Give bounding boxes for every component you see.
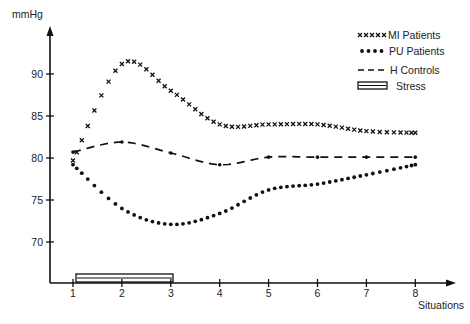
data-point [248,124,252,128]
data-point [100,190,104,194]
data-point [261,190,265,194]
data-point [291,122,295,126]
data-point [279,185,283,189]
data-point [352,128,356,132]
data-point [316,182,320,186]
y-axis-label: mmHg [12,8,43,20]
data-point [334,125,338,129]
blood-pressure-chart: mmHg Situations 7075808590 12345678 MI P… [0,0,470,324]
data-point [316,155,320,159]
x-tick-label: 6 [315,287,321,299]
data-point [230,206,234,210]
data-point [151,220,155,224]
data-point [144,218,148,222]
data-point [291,184,295,188]
y-tick-label: 80 [31,152,43,164]
data-point [358,174,362,178]
data-point [107,80,111,84]
series-pu-patients [71,163,417,226]
data-point [309,183,313,187]
legend-item-pu: PU Patients [360,45,444,57]
svg-text:MI Patients: MI Patients [388,29,441,41]
data-point [150,73,154,77]
data-point [413,131,417,135]
data-point [120,207,124,211]
data-point [138,216,142,220]
series-mi-patients [71,59,417,162]
data-point [358,128,362,132]
data-point [378,170,382,174]
data-point [132,60,136,64]
data-point [297,184,301,188]
cross-marker-icon [358,33,386,37]
data-point [236,125,240,129]
data-point [120,62,124,66]
legend-item-mi: MI Patients [358,29,441,41]
data-point [157,79,161,83]
svg-text:H Controls: H Controls [390,64,440,76]
data-point [242,125,246,129]
data-point [175,222,179,226]
data-point [187,102,191,106]
data-point [181,98,185,102]
data-point [138,63,142,67]
data-point [163,84,167,88]
svg-text:Stress: Stress [396,80,426,92]
data-point [163,222,167,226]
data-point [364,129,368,133]
data-point [297,122,301,126]
x-tick-label: 1 [70,287,76,299]
data-point [193,107,197,111]
data-point [303,183,307,187]
data-point [181,222,185,226]
data-point [132,213,136,217]
x-tick-label: 4 [217,287,223,299]
data-point [75,166,79,170]
h-controls-line [73,142,415,165]
data-point [378,130,382,134]
data-point [392,167,396,171]
x-axis-arrow-icon [446,280,456,287]
data-point [254,193,258,197]
data-point [399,131,403,135]
data-point [120,140,124,144]
data-point [230,125,234,129]
data-point [212,214,216,218]
series-group [71,59,417,226]
data-point [218,163,222,167]
data-point [279,122,283,126]
data-point [328,180,332,184]
data-point [169,89,173,93]
data-point [340,178,344,182]
y-tick-label: 85 [31,110,43,122]
data-point [157,221,161,225]
legend-item-stress: Stress [358,80,426,92]
data-point [80,171,84,175]
data-point [99,93,103,97]
data-point [267,122,271,126]
data-point [267,188,271,192]
data-point [322,123,326,127]
y-tick-label: 90 [31,68,43,80]
data-point [114,202,118,206]
data-point [80,138,84,142]
data-point [224,124,228,128]
data-point [169,151,173,155]
data-point [267,155,271,159]
data-point [71,163,75,167]
data-point [309,122,313,126]
data-point [242,199,246,203]
data-point [316,122,320,126]
x-tick-label: 3 [168,287,174,299]
y-tick-label: 75 [31,194,43,206]
data-point [273,186,277,190]
data-point [86,177,90,181]
data-point [126,210,130,214]
data-point [392,130,396,134]
data-point [385,130,389,134]
data-point [365,173,369,177]
legend: MI Patients PU Patients H Controls Stres… [358,29,444,92]
data-point [340,126,344,130]
data-point [254,123,258,127]
data-point [92,109,96,113]
